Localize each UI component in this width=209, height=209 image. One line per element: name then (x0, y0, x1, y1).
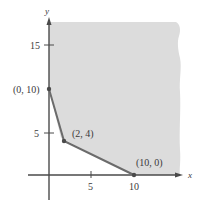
vertex-label-10-0: (10, 0) (136, 157, 163, 169)
x-tick-label-10: 10 (129, 181, 139, 192)
x-tick-label-5: 5 (88, 181, 93, 192)
feasible-region (49, 22, 181, 175)
y-tick-label-5: 5 (34, 128, 39, 139)
vertex-10-0 (132, 173, 136, 177)
graph: y x 15 5 5 10 (0, 10) (2, 4) (10, 0) (0, 0, 209, 209)
y-axis-label: y (44, 6, 49, 16)
y-axis-arrow-icon (47, 17, 52, 25)
y-tick-label-15: 15 (30, 40, 40, 51)
vertex-label-2-4: (2, 4) (72, 128, 94, 140)
vertex-2-4 (62, 139, 66, 143)
vertex-0-10 (47, 87, 51, 91)
x-axis-label: x (187, 170, 192, 180)
vertex-label-0-10: (0, 10) (13, 84, 40, 96)
